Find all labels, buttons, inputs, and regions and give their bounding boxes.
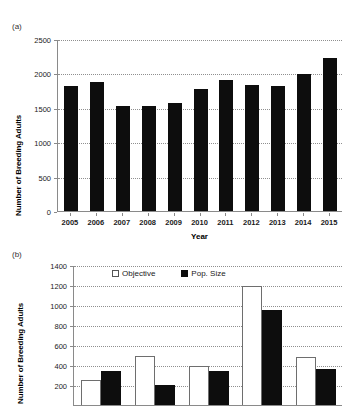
panel-b-bar-pop-size [101,371,121,405]
panel-b-plot-area [73,266,342,406]
chart-panel-b: Number of Breeding Adults Objective Pop.… [0,248,347,406]
panel-a-x-axis-title: Year [57,232,342,241]
legend-label-objective: Objective [122,269,155,278]
panel-a-bar [90,82,104,211]
panel-a-y-tick-mark [54,143,57,144]
panel-b-bar-objective [81,380,101,405]
panel-a-x-tick-mark [303,213,304,216]
panel-a-x-tick-mark [70,213,71,216]
panel-a-y-tick-label: 2000 [34,70,51,79]
panel-a-x-tick-label: 2011 [217,218,233,227]
panel-b-y-tick-label: 1200 [50,282,67,291]
panel-b-gridline [74,326,342,327]
panel-b-y-tick-label: 600 [54,342,67,351]
panel-b-legend: Objective Pop. Size [112,269,226,278]
panel-b-gridline [74,266,342,267]
panel-a-y-tick-label: 500 [38,173,51,182]
panel-a-bar [168,103,182,211]
panel-a-y-tick-mark [54,212,57,213]
panel-a-x-tick-label: 2014 [295,218,312,227]
figure-container: (a) Number of Breeding Adults Year 05001… [0,0,347,406]
panel-b-y-tick-label: 800 [54,322,67,331]
panel-a-y-tick-mark [54,40,57,41]
panel-b-bar-objective [189,366,209,406]
panel-a-x-tick-label: 2005 [62,218,79,227]
panel-b-y-tick-mark [70,306,73,307]
panel-a-bar [116,106,130,211]
panel-a-y-tick-label: 2500 [34,36,51,45]
panel-a-x-tick-label: 2007 [113,218,130,227]
panel-b-bar-objective [135,356,155,405]
panel-a-bar [297,74,311,211]
pop-size-swatch-icon [181,270,188,277]
panel-a-bar [271,86,285,211]
panel-b-y-tick-label: 1400 [50,262,67,271]
panel-b-y-tick-mark [70,286,73,287]
panel-a-x-tick-mark [174,213,175,216]
panel-b-y-tick-label: 1000 [50,302,67,311]
panel-a-y-tick-label: 1000 [34,139,51,148]
panel-b-gridline [74,286,342,287]
panel-b-bar-pop-size [209,371,229,405]
panel-b-y-tick-mark [70,386,73,387]
panel-a-x-tick-mark [200,213,201,216]
panel-a-y-tick-label: 1500 [34,104,51,113]
panel-b-gridline [74,346,342,347]
panel-a-x-tick-mark [96,213,97,216]
panel-a-gridline [58,40,342,41]
panel-a-x-tick-mark [225,213,226,216]
panel-b-bar-pop-size [316,369,336,406]
panel-a-y-tick-label: 0 [47,208,51,217]
panel-a-x-tick-label: 2006 [88,218,105,227]
legend-item-pop-size: Pop. Size [181,269,225,278]
panel-b-bar-pop-size [155,385,175,405]
panel-b-y-tick-mark [70,326,73,327]
panel-a-x-tick-label: 2010 [191,218,208,227]
panel-b-y-tick-mark [70,346,73,347]
panel-b-y-tick-mark [70,366,73,367]
panel-a-y-axis-title: Number of Breeding Adults [14,115,23,216]
panel-a-plot-area [57,40,342,212]
panel-a-bar [64,86,78,211]
panel-a-bar [219,80,233,211]
panel-a-x-tick-mark [122,213,123,216]
panel-a-x-tick-mark [251,213,252,216]
panel-b-bar-objective [296,357,316,406]
panel-a-x-tick-mark [148,213,149,216]
panel-a-x-tick-mark [277,213,278,216]
panel-b-gridline [74,306,342,307]
panel-a-x-tick-label: 2009 [165,218,182,227]
panel-a-bar [142,106,156,211]
panel-a-bar [245,85,259,211]
panel-b-bar-pop-size [262,310,282,405]
panel-b-bar-objective [242,286,262,405]
objective-swatch-icon [112,270,119,277]
panel-a-x-tick-mark [329,213,330,216]
panel-a-x-tick-label: 2008 [139,218,156,227]
panel-a-y-tick-mark [54,74,57,75]
panel-a-x-tick-label: 2015 [321,218,338,227]
panel-a-x-tick-label: 2013 [269,218,286,227]
panel-a-y-tick-mark [54,178,57,179]
panel-a-x-tick-label: 2012 [243,218,260,227]
legend-item-objective: Objective [112,269,155,278]
panel-a-bar [323,58,337,211]
panel-b-y-tick-label: 200 [54,382,67,391]
chart-panel-a: Number of Breeding Adults Year 050010001… [0,0,347,248]
panel-b-y-tick-label: 400 [54,362,67,371]
panel-a-y-tick-mark [54,109,57,110]
panel-b-y-axis-title: Number of Breeding Adults [16,303,25,404]
panel-b-y-tick-mark [70,266,73,267]
panel-a-bar [194,89,208,211]
legend-label-pop-size: Pop. Size [191,269,225,278]
